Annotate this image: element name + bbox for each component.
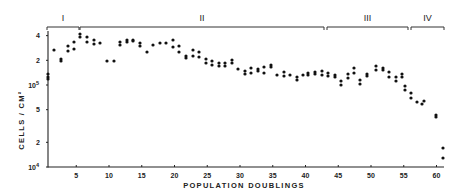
data-point [197,50,200,53]
data-point [145,50,148,53]
y-tick-label: 105 [28,80,39,89]
x-tick-label: 10 [105,172,113,179]
data-point [72,40,75,43]
data-point [138,41,141,44]
data-point [46,72,49,75]
phase-label: I [62,13,65,23]
data-point [415,100,418,103]
phase-brackets: IIIIIIIV [47,13,444,30]
data-point [400,72,403,75]
data-point [326,71,329,74]
data-point [249,66,252,69]
data-point [358,82,361,85]
data-point [243,72,246,75]
data-point [151,43,154,46]
data-point [46,77,49,80]
data-point [223,61,226,64]
data-point [125,40,128,43]
data-point [262,65,265,68]
data-point [301,73,304,76]
phase-bracket [411,27,444,30]
data-point [197,55,200,58]
y-ticks: 1042510524 [28,32,48,170]
x-tick-label: 25 [203,172,211,179]
data-point [394,79,397,82]
data-point [236,67,239,70]
x-tick-label: 60 [433,172,441,179]
data-point [326,74,329,77]
data-point [346,76,349,79]
data-points [46,32,444,159]
y-tick-label: 5 [36,106,40,113]
data-point [184,56,187,59]
data-point [333,75,336,78]
data-point [295,78,298,81]
data-point [118,40,121,43]
data-point [434,115,437,118]
phase-label: IV [423,13,432,23]
data-point [177,50,180,53]
x-tick-label: 20 [171,172,179,179]
data-point [66,49,69,52]
data-point [400,75,403,78]
data-point [230,61,233,64]
data-point [282,70,285,73]
data-point [420,102,423,105]
data-point [85,35,88,38]
data-point [191,48,194,51]
data-point [204,57,207,60]
x-tick-label: 55 [400,172,408,179]
data-point [85,40,88,43]
data-point [403,84,406,87]
data-point [374,64,377,67]
data-point [381,68,384,71]
data-point [256,69,259,72]
data-point [105,59,108,62]
data-point [249,71,252,74]
data-point [394,75,397,78]
data-point [358,78,361,81]
x-tick-label: 45 [334,172,342,179]
data-point [352,66,355,69]
data-point [352,71,355,74]
data-point [295,75,298,78]
data-point [387,75,390,78]
data-point [288,73,291,76]
data-point [164,41,167,44]
data-point [409,96,412,99]
data-point [171,45,174,48]
data-point [210,59,213,62]
data-point [217,64,220,67]
data-point [158,41,161,44]
y-tick-label: 2 [36,139,40,146]
data-point [191,54,194,57]
data-point [365,74,368,77]
data-point [78,35,81,38]
x-tick-label: 15 [138,172,146,179]
data-point [320,73,323,76]
data-point [403,88,406,91]
data-point [72,47,75,50]
data-point [339,83,342,86]
data-point [177,44,180,47]
data-point [441,156,444,159]
data-point [138,44,141,47]
data-point [131,39,134,42]
y-tick-label: 104 [28,162,40,171]
x-tick-label: 5 [74,172,78,179]
data-point [320,69,323,72]
data-point [313,72,316,75]
data-point [92,42,95,45]
data-point [422,99,425,102]
data-point [346,72,349,75]
data-point [98,41,101,44]
data-point [441,146,444,149]
data-point [223,64,226,67]
y-axis-title: CELLS / CM² [17,90,26,149]
data-point [230,58,233,61]
x-tick-label: 30 [236,172,244,179]
data-point [59,59,62,62]
x-tick-label: 50 [367,172,375,179]
data-point [306,73,309,76]
data-point [66,44,69,47]
